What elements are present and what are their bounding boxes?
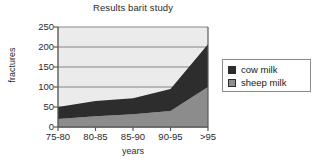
- chart-legend: cow milk sheep milk: [222, 59, 311, 92]
- legend-swatch-sheep-milk: [228, 79, 236, 87]
- legend-item-sheep-milk: sheep milk: [228, 76, 286, 89]
- legend-label-cow-milk: cow milk: [241, 64, 277, 75]
- chart-container: Results barit study fractures 0501001502…: [0, 0, 316, 162]
- legend-item-cow-milk: cow milk: [228, 63, 277, 76]
- legend-label-sheep-milk: sheep milk: [241, 77, 286, 88]
- legend-swatch-cow-milk: [228, 66, 236, 74]
